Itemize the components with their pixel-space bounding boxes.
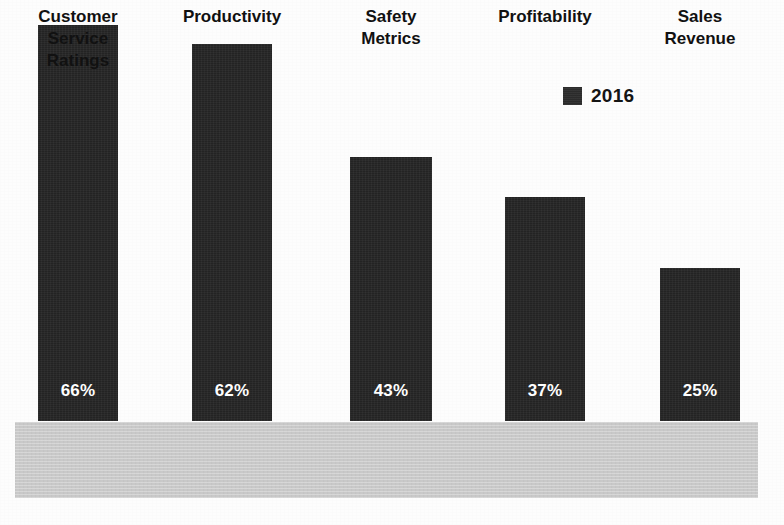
legend-label-2016: 2016 [591, 86, 634, 105]
bar-sales-revenue[interactable]: 25% [660, 268, 740, 421]
category-axis-band [15, 422, 758, 498]
category-label-customer-service-ratings: Customer Service Ratings [18, 6, 138, 71]
category-label-safety-metrics: Safety Metrics [331, 6, 451, 50]
bar-value-label: 37% [505, 382, 585, 399]
bar-value-label: 25% [660, 382, 740, 399]
bar-chart: 66% 62% 43% 37% 25% [0, 0, 784, 525]
category-label-sales-revenue: Sales Revenue [639, 6, 761, 50]
bar-productivity[interactable]: 62% [192, 44, 272, 421]
category-label-profitability: Profitability [484, 6, 606, 28]
category-label-line: Productivity [170, 6, 294, 28]
category-label-line: Safety [331, 6, 451, 28]
bar-group-sales-revenue: 25% [660, 268, 740, 421]
category-label-line: Revenue [639, 28, 761, 50]
category-label-line: Ratings [18, 50, 138, 72]
bar-value-label: 43% [350, 382, 432, 399]
bar-customer-service-ratings[interactable]: 66% [38, 25, 118, 421]
bar-group-customer-service-ratings: 66% [38, 25, 118, 421]
category-label-line: Service [18, 28, 138, 50]
bar-value-label: 62% [192, 382, 272, 399]
bar-safety-metrics[interactable]: 43% [350, 157, 432, 421]
bar-group-productivity: 62% [192, 44, 272, 421]
legend-swatch-2016 [563, 87, 582, 105]
category-label-productivity: Productivity [170, 6, 294, 28]
bar-group-profitability: 37% [505, 197, 585, 421]
category-label-line: Sales [639, 6, 761, 28]
category-label-line: Customer [18, 6, 138, 28]
category-label-line: Profitability [484, 6, 606, 28]
category-label-line: Metrics [331, 28, 451, 50]
bar-group-safety-metrics: 43% [350, 157, 432, 421]
legend: 2016 [563, 86, 634, 105]
bar-profitability[interactable]: 37% [505, 197, 585, 421]
bar-value-label: 66% [38, 382, 118, 399]
